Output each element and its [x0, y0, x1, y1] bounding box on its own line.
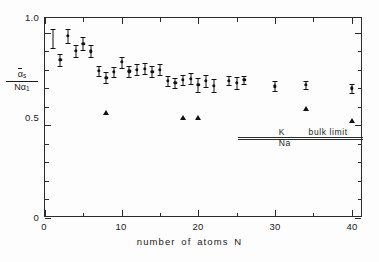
y-axis-tick-right-minor [358, 162, 362, 163]
error-bar-cap-bottom [203, 87, 208, 88]
x-axis-tick-top-minor [313, 18, 314, 22]
error-bar-cap-bottom [226, 85, 231, 86]
data-point-triangle [303, 106, 309, 111]
error-bar-cap-bottom [119, 68, 124, 69]
error-bar-cap-bottom [196, 92, 201, 93]
error-bar-cap-top [142, 63, 147, 64]
data-point-circle [128, 70, 131, 73]
error-bar-cap-bottom [58, 66, 63, 67]
error-bar-cap-top [157, 64, 162, 65]
alpha-subscript-s: s [23, 72, 26, 79]
data-point-circle [304, 83, 307, 86]
error-bar-cap-top [81, 37, 86, 38]
x-axis-tick-top-minor [160, 18, 161, 22]
data-point-circle [59, 58, 62, 61]
x-axis-tick-top-minor [83, 18, 84, 22]
x-axis-tick-top-minor [237, 18, 238, 22]
bulk-limit-label-k: K [279, 127, 285, 137]
data-point-circle [89, 50, 92, 53]
y-axis-denominator: Nα1 [4, 82, 40, 93]
error-bar-cap-top [180, 75, 185, 76]
error-bar-cap-top [234, 77, 239, 78]
data-point-circle [174, 81, 177, 84]
error-bar-cap-bottom [242, 84, 247, 85]
error-bar-cap-bottom [96, 76, 101, 77]
x-axis-tick-major [198, 210, 199, 216]
data-point-circle [66, 34, 69, 37]
error-bar-cap-bottom [150, 77, 155, 78]
error-bar-cap-top [272, 81, 277, 82]
error-bar-cap-bottom [157, 75, 162, 76]
x-tick-label-20: 20 [188, 221, 208, 232]
data-point-circle [74, 49, 77, 52]
y-axis-tick-minor [45, 162, 49, 163]
error-bar-cap-bottom [73, 57, 78, 58]
data-point-circle [105, 76, 108, 79]
error-bar-cap-bottom [211, 92, 216, 93]
error-bar-cap-top [203, 75, 208, 76]
x-tick-label-40: 40 [342, 221, 362, 232]
error-bar-cap-top [127, 66, 132, 67]
error-bar-cap-top [165, 76, 170, 77]
x-axis-tick-top [122, 18, 123, 24]
data-point-circle [235, 81, 238, 84]
error-bar-cap-bottom [234, 89, 239, 90]
data-point-triangle [103, 110, 109, 115]
data-point-circle [158, 68, 161, 71]
y-axis-tick-right-minor [358, 107, 362, 108]
data-point-circle [166, 79, 169, 82]
x-axis-tick-top [275, 18, 276, 24]
error-bar-cap-top [119, 57, 124, 58]
error-bar-cap-top [96, 66, 101, 67]
error-bar-cap-top [111, 67, 116, 68]
x-axis-tick-top [352, 18, 353, 24]
y-axis-tick-major [45, 218, 51, 219]
x-tick-label-10: 10 [111, 221, 131, 232]
data-point-circle [181, 78, 184, 81]
error-bar-cap-bottom [349, 93, 354, 94]
error-bar-cap-bottom [111, 77, 116, 78]
y-axis-tick-right-minor [358, 70, 362, 71]
x-axis-tick-minor [237, 213, 238, 217]
error-bar-cap-bottom [303, 89, 308, 90]
y-axis-tick-right-minor [358, 88, 362, 89]
data-point-circle [350, 87, 353, 90]
y-axis-tick-right [355, 218, 361, 219]
x-axis-title: number of atoms N [0, 236, 379, 247]
data-point-circle [135, 68, 138, 71]
x-axis-tick-top [198, 18, 199, 24]
x-axis-tick-major [352, 210, 353, 216]
x-axis-tick-top [45, 18, 46, 24]
x-axis-tick-minor [160, 213, 161, 217]
figure-container: 1.0 0.5 0 αs Nα1 0 10 20 30 40 number of… [0, 0, 379, 262]
error-bar-cap-bottom [180, 85, 185, 86]
y-axis-tick-right-minor [358, 199, 362, 200]
error-bar-cap-top [65, 29, 70, 30]
y-axis-tick-minor [45, 199, 49, 200]
data-point-circle [273, 84, 276, 87]
x-axis-tick-major [275, 210, 276, 216]
n-alpha-symbol: Nα [14, 82, 26, 92]
error-bar-cap-top [226, 76, 231, 77]
data-point-circle [227, 79, 230, 82]
x-tick-label-0: 0 [34, 221, 54, 232]
bulk-limit-label-na: Na [279, 138, 291, 148]
error-bar-cap-bottom [173, 88, 178, 89]
data-point-triangle [195, 115, 201, 120]
error-bar-cap-top [196, 78, 201, 79]
error-bar-cap-top [211, 79, 216, 80]
data-point-circle [212, 84, 215, 87]
y-axis-tick-right-minor [358, 181, 362, 182]
error-bar-cap-top [73, 45, 78, 46]
y-tick-label-1.0: 1.0 [15, 12, 39, 23]
data-point-circle [197, 83, 200, 86]
error-bar-cap-top [173, 78, 178, 79]
error-bar-cap-bottom [272, 91, 277, 92]
data-point-triangle [349, 118, 355, 123]
y-axis-tick-minor [45, 51, 49, 52]
bulk-limit-line-na [238, 139, 363, 140]
data-point-circle [243, 78, 246, 81]
x-axis-tick-minor [83, 213, 84, 217]
data-point-circle [97, 69, 100, 72]
error-bar-cap-bottom [127, 77, 132, 78]
